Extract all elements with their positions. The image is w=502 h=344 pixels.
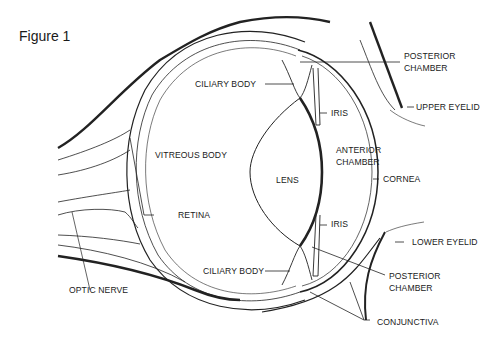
label-iris-bottom: IRIS [331,218,348,230]
label-ciliary-body-bottom: CILIARY BODY [203,265,264,277]
label-optic-nerve: OPTIC NERVE [69,284,128,296]
label-vitreous-body: VITREOUS BODY [155,149,227,161]
label-posterior-chamber-top: POSTERIOR CHAMBER [404,50,456,74]
label-iris-top: IRIS [331,107,348,119]
label-conjunctiva: CONJUNCTIVA [377,316,439,328]
label-anterior-chamber: ANTERIOR CHAMBER [336,144,381,168]
label-cornea: CORNEA [383,173,420,185]
label-posterior-chamber-bottom: POSTERIOR CHAMBER [389,270,441,294]
label-retina: RETINA [178,209,210,221]
label-lens: LENS [276,174,299,186]
label-ciliary-body-top: CILIARY BODY [195,78,256,90]
label-lower-eyelid: LOWER EYELID [412,236,478,248]
label-upper-eyelid: UPPER EYELID [416,101,480,113]
ciliary-iris-shapes [282,60,320,285]
lens-shape [250,98,322,246]
